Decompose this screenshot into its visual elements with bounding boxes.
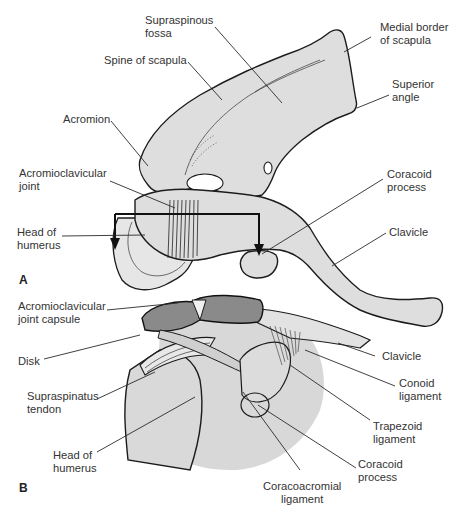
label-head-of-humerus-b: Head of humerus [53, 449, 97, 475]
humeral-head-b-shape [125, 350, 202, 470]
label-line: Conoid [399, 377, 441, 390]
label-line: ligament [399, 390, 441, 403]
label-line: Trapezoid [373, 420, 422, 433]
label-clavicle-a: Clavicle [389, 226, 428, 239]
label-line: Supraspinatus [27, 390, 99, 403]
label-clavicle-b: Clavicle [382, 350, 421, 363]
label-line: Coracoid [358, 458, 403, 471]
label-medial-border-of-scapula: Medial border of scapula [380, 21, 448, 47]
label-line: Acromion [63, 113, 110, 126]
panel-label-a: A [19, 273, 28, 287]
label-trapezoid-ligament: Trapezoid ligament [373, 420, 422, 446]
label-acromioclavicular-joint: Acromioclavicular joint [19, 167, 107, 193]
label-supraspinous-fossa: Supraspinous fossa [145, 14, 213, 40]
label-coracoid-process-b: Coracoid process [358, 458, 403, 484]
label-acromioclavicular-joint-capsule: Acromioclavicular joint capsule [18, 300, 106, 326]
label-line: angle [392, 91, 434, 104]
label-line: Clavicle [389, 226, 428, 239]
label-head-of-humerus-a: Head of humerus [17, 226, 61, 252]
label-line: ligament [373, 433, 422, 446]
label-line: of scapula [380, 34, 448, 47]
label-line: fossa [145, 27, 213, 40]
label-line: joint [19, 180, 107, 193]
label-line: Head of [53, 449, 97, 462]
label-line: Clavicle [382, 350, 421, 363]
label-line: humerus [53, 462, 97, 475]
label-line: Superior [392, 78, 434, 91]
label-line: process [387, 181, 432, 194]
label-supraspinatus-tendon: Supraspinatus tendon [27, 390, 99, 416]
label-line: Acromioclavicular [19, 167, 107, 180]
label-line: Disk [18, 355, 40, 368]
label-line: tendon [27, 403, 99, 416]
label-coracoid-process-a: Coracoid process [387, 168, 432, 194]
label-spine-of-scapula: Spine of scapula [104, 54, 187, 67]
label-line: ligament [263, 493, 341, 506]
label-acromion: Acromion [63, 113, 110, 126]
panel-label-b: B [19, 481, 28, 495]
label-line: Coracoacromial [263, 480, 341, 493]
label-line: Head of [17, 226, 61, 239]
label-superior-angle: Superior angle [392, 78, 434, 104]
label-disk: Disk [18, 355, 40, 368]
label-conoid-ligament: Conoid ligament [399, 377, 441, 403]
label-line: Supraspinous [145, 14, 213, 27]
label-line: joint capsule [18, 313, 106, 326]
label-line: Spine of scapula [104, 54, 187, 67]
label-coracoacromial-ligament: Coracoacromial ligament [263, 480, 341, 506]
label-line: process [358, 471, 403, 484]
panel-b-drawing [125, 295, 370, 470]
label-line: Coracoid [387, 168, 432, 181]
label-line: Medial border [380, 21, 448, 34]
anatomy-figure: Supraspinous fossa Medial border of scap… [0, 0, 461, 512]
label-line: Acromioclavicular [18, 300, 106, 313]
label-line: humerus [17, 239, 61, 252]
